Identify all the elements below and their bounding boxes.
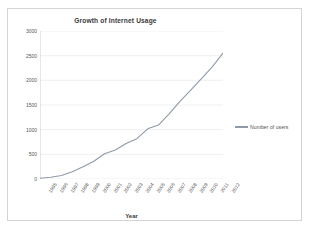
x-tick-label: 1995: [48, 182, 58, 194]
y-tick-label: 1500: [26, 102, 37, 108]
x-tick-label: 2007: [177, 182, 187, 194]
chart-frame: Growth of Internet Usage Millions of use…: [7, 8, 302, 221]
gridlines: [40, 31, 223, 179]
y-tick-label: 2000: [26, 77, 37, 83]
x-tick-label: 2003: [134, 182, 144, 194]
chart-legend: Number of users: [235, 124, 288, 130]
x-tick-label: 2011: [220, 182, 230, 193]
x-tick-label: 1998: [80, 182, 90, 194]
x-axis-title: Year: [40, 213, 223, 219]
x-tick-label: 2001: [112, 182, 122, 194]
y-tick-label: 0: [34, 176, 37, 182]
plot-area: 050010001500200025003000 199519961997199…: [40, 31, 223, 179]
y-tick-label: 1000: [26, 127, 37, 133]
x-tick-label: 2012: [231, 182, 241, 194]
legend-label: Number of users: [250, 124, 288, 130]
chart-title: Growth of Internet Usage: [8, 17, 223, 24]
legend-line-swatch: [235, 126, 248, 127]
x-tick-label: 1999: [91, 182, 101, 194]
x-tick-label: 2002: [123, 182, 133, 194]
x-tick-label: 1997: [69, 182, 79, 194]
x-tick-label: 2010: [209, 182, 219, 194]
x-tick-label: 2008: [188, 182, 198, 194]
x-tick-label: 2009: [198, 182, 208, 194]
y-tick-label: 2500: [26, 53, 37, 59]
x-tick-label: 2004: [145, 182, 155, 194]
data-series-line: [40, 53, 223, 178]
x-tick-label: 2006: [166, 182, 176, 194]
x-tick-label: 1996: [58, 182, 68, 194]
x-tick-label: 2000: [101, 182, 111, 194]
y-tick-label: 3000: [26, 28, 37, 34]
y-tick-label: 500: [29, 151, 37, 157]
plot-svg: [40, 31, 223, 179]
x-tick-label: 2005: [155, 182, 165, 194]
